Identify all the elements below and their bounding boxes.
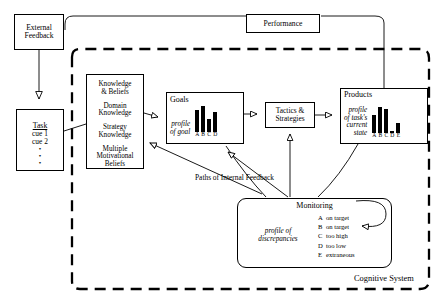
- products-bar-label-E: E: [397, 133, 400, 139]
- edge-goals-to-monitoring: [226, 146, 266, 197]
- goals-bar-label-A: A: [195, 132, 199, 138]
- monitoring-title: Monitoring: [238, 199, 391, 210]
- products-bar-label-D: D: [390, 133, 394, 139]
- products-bar-label-B: B: [378, 133, 382, 139]
- goals-bar-C: C: [207, 106, 211, 138]
- diagram-canvas: External Feedback Performance Task cue 1…: [0, 0, 445, 301]
- knowledge-item-domain: Domain Knowledge: [87, 103, 143, 119]
- knowledge-item-beliefs: Knowledge & Beliefs: [87, 81, 143, 97]
- external-feedback-line2: Feedback: [24, 32, 53, 40]
- edge-monitoring-to-knowledge: [150, 143, 262, 194]
- node-goals[interactable]: Goals profile of goal ABCD: [166, 92, 244, 144]
- goals-bar-label-D: D: [213, 132, 217, 138]
- goals-bar-rect-C: [207, 119, 211, 132]
- monitoring-row-key-A: A: [318, 213, 326, 222]
- goals-bar-B: B: [201, 106, 205, 138]
- knowledge-item-strategy: Strategy Knowledge: [87, 124, 143, 140]
- products-bar-A: A: [372, 107, 376, 139]
- monitoring-body: profile of discrepancies Aon targetBon t…: [238, 210, 391, 262]
- goals-bar-rect-D: [213, 112, 217, 132]
- paths-of-internal-feedback-label: Paths of Internal Feedback: [195, 173, 274, 182]
- goals-bar-series: ABCD: [195, 106, 217, 138]
- edge-knowledge-to-goals: [144, 113, 158, 117]
- products-profile-caption: profile of task's current state: [344, 107, 367, 139]
- goals-profile-line2: of goal: [170, 129, 190, 137]
- monitoring-row-A: Aon target: [318, 213, 355, 222]
- monitoring-row-D: Dtoo low: [318, 241, 355, 250]
- goals-bar-D: D: [213, 106, 217, 138]
- edge-performance-to-external-feedback: [65, 16, 246, 30]
- node-products[interactable]: Products profile of task's current state…: [340, 88, 428, 144]
- monitoring-row-value-E: extraneous: [326, 251, 355, 258]
- performance-label: Performance: [264, 19, 303, 28]
- node-external-feedback[interactable]: External Feedback: [14, 14, 64, 50]
- monitoring-row-key-D: D: [318, 241, 326, 250]
- edge-products-to-monitoring: [318, 144, 358, 197]
- monitoring-row-value-A: on target: [326, 214, 349, 221]
- task-ellipsis-3: •: [17, 160, 63, 167]
- goals-profile-caption: profile of goal: [170, 121, 190, 138]
- monitoring-row-key-E: E: [318, 250, 326, 259]
- products-title: Products: [341, 89, 427, 99]
- monitoring-row-value-C: too high: [326, 232, 348, 239]
- monitoring-row-B: Bon target: [318, 222, 355, 231]
- monitoring-discrepancy-list: Aon targetBon targetCtoo highDtoo lowEex…: [318, 213, 355, 260]
- goals-bar-label-B: B: [201, 132, 205, 138]
- products-bar-rect-B: [378, 107, 382, 133]
- products-bar-series: ABCDE: [372, 107, 400, 139]
- monitoring-row-E: Eextraneous: [318, 250, 355, 259]
- edge-task-to-knowledge: [64, 124, 86, 131]
- products-bar-D: D: [390, 107, 394, 139]
- goals-bar-rect-B: [201, 106, 205, 132]
- monitoring-profile-caption: profile of discrepancies: [242, 228, 314, 244]
- node-task[interactable]: Task cue 1 cue 2 • • •: [16, 109, 64, 171]
- external-feedback-label: External Feedback: [24, 24, 53, 40]
- products-chart: profile of task's current state ABCDE: [341, 99, 427, 141]
- node-tactics-and-strategies[interactable]: Tactics & Strategies: [265, 102, 315, 128]
- edge-products-to-performance: [321, 16, 384, 88]
- goals-bar-label-C: C: [207, 132, 211, 138]
- monitoring-row-key-C: C: [318, 231, 326, 240]
- products-bar-rect-C: [384, 109, 388, 133]
- node-monitoring[interactable]: Monitoring profile of discrepancies Aon …: [237, 198, 392, 268]
- node-knowledge-and-beliefs[interactable]: Knowledge & Beliefs Domain Knowledge Str…: [86, 74, 144, 169]
- knowledge-item-domain-line2: Knowledge: [87, 110, 143, 118]
- products-bar-C: C: [384, 107, 388, 139]
- products-bar-B: B: [378, 107, 382, 139]
- products-profile-line4: state: [344, 130, 367, 138]
- tactics-label: Tactics & Strategies: [275, 107, 304, 123]
- goals-bar-A: A: [195, 106, 199, 138]
- products-bar-label-C: C: [384, 133, 388, 139]
- products-bar-rect-A: [372, 115, 376, 133]
- goals-chart: profile of goal ABCD: [167, 104, 243, 140]
- knowledge-item-motivational-line3: Beliefs: [87, 161, 143, 169]
- tactics-line2: Strategies: [275, 115, 304, 123]
- node-performance[interactable]: Performance: [246, 14, 320, 33]
- knowledge-item-beliefs-line2: & Beliefs: [87, 89, 143, 97]
- products-bar-label-A: A: [372, 133, 376, 139]
- products-bar-E: E: [396, 107, 400, 139]
- knowledge-item-motivational: Multiple Motivational Beliefs: [87, 146, 143, 169]
- cognitive-system-label: Cognitive System: [352, 274, 416, 283]
- monitoring-profile-line2: discrepancies: [242, 236, 314, 244]
- monitoring-row-value-D: too low: [326, 242, 346, 249]
- goals-title: Goals: [167, 93, 243, 104]
- knowledge-item-strategy-line2: Knowledge: [87, 132, 143, 140]
- monitoring-row-value-B: on target: [326, 223, 349, 230]
- goals-bar-rect-A: [195, 110, 199, 132]
- products-bar-rect-E: [396, 123, 400, 133]
- monitoring-row-key-B: B: [318, 222, 326, 231]
- monitoring-row-C: Ctoo high: [318, 231, 355, 240]
